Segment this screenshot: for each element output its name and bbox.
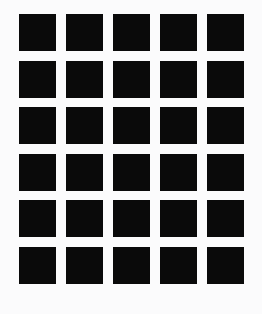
grid-cell-r4-c2 [66, 154, 103, 191]
grid-cell-r5-c2 [66, 200, 103, 237]
grid-cell-r1-c3 [113, 14, 150, 51]
grid-cell-r6-c4 [160, 247, 197, 284]
grid-cell-r2-c5 [207, 61, 244, 98]
grid-cell-r4-c1 [19, 154, 56, 191]
grid-cell-r3-c5 [207, 107, 244, 144]
grid-cell-r6-c5 [207, 247, 244, 284]
square-grid [19, 14, 244, 296]
grid-cell-r6-c3 [113, 247, 150, 284]
grid-cell-r6-c2 [66, 247, 103, 284]
grid-cell-r5-c3 [113, 200, 150, 237]
grid-cell-r2-c4 [160, 61, 197, 98]
grid-cell-r5-c5 [207, 200, 244, 237]
pattern-canvas [0, 0, 262, 314]
grid-cell-r4-c3 [113, 154, 150, 191]
grid-cell-r6-c1 [19, 247, 56, 284]
grid-cell-r5-c4 [160, 200, 197, 237]
grid-cell-r2-c2 [66, 61, 103, 98]
grid-cell-r1-c5 [207, 14, 244, 51]
grid-cell-r3-c3 [113, 107, 150, 144]
grid-cell-r3-c4 [160, 107, 197, 144]
grid-cell-r5-c1 [19, 200, 56, 237]
grid-cell-r4-c5 [207, 154, 244, 191]
grid-cell-r1-c2 [66, 14, 103, 51]
grid-cell-r3-c1 [19, 107, 56, 144]
grid-cell-r1-c1 [19, 14, 56, 51]
grid-cell-r2-c1 [19, 61, 56, 98]
grid-cell-r4-c4 [160, 154, 197, 191]
grid-cell-r2-c3 [113, 61, 150, 98]
grid-cell-r3-c2 [66, 107, 103, 144]
grid-cell-r1-c4 [160, 14, 197, 51]
